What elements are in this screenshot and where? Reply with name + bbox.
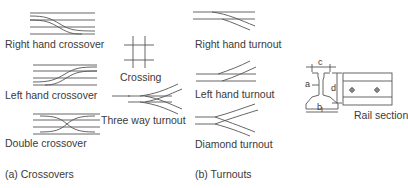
right-hand-turnout-icon (193, 12, 255, 30)
crossovers-caption: (a) Crossovers (5, 168, 74, 180)
left-hand-crossover-label: Left hand crossover (5, 89, 97, 101)
left-hand-crossover-icon (33, 65, 97, 85)
rail-side-view-icon (343, 73, 392, 105)
dim-b-label: b (317, 101, 322, 113)
dim-d-label: d (331, 82, 336, 94)
turnouts-caption: (b) Turnouts (195, 168, 252, 180)
crossing-label: Crossing (120, 71, 161, 83)
rail-section-label: Rail section (354, 109, 408, 121)
left-hand-turnout-label: Left hand turnout (195, 88, 274, 100)
three-way-turnout-icon (128, 84, 182, 114)
diamond-turnout-label: Diamond turnout (195, 138, 273, 150)
dim-c-label: c (318, 56, 323, 68)
right-hand-turnout-label: Right hand turnout (195, 38, 281, 50)
right-hand-crossover-icon (30, 13, 95, 34)
crossing-icon (124, 36, 154, 68)
diamond-turnout-icon (195, 104, 258, 136)
double-crossover-label: Double crossover (5, 137, 87, 149)
right-hand-crossover-label: Right hand crossover (5, 38, 104, 50)
left-hand-turnout-icon (196, 61, 256, 81)
dim-a-label: a (305, 78, 310, 90)
rail-profile-icon (306, 64, 342, 112)
double-crossover-icon (33, 114, 100, 134)
three-way-turnout-label: Three way turnout (101, 114, 186, 126)
